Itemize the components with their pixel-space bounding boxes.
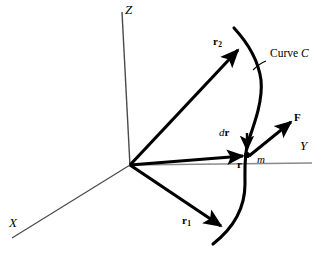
vector-label-f: F [294,112,301,123]
vector-label-r-symbol: r [237,158,242,170]
axis-label-x: X [9,216,17,229]
curve-label-text: Curve [270,47,298,59]
vector-r2-arrow [130,50,238,165]
axis-label-y: Y [300,139,307,152]
figure-canvas [0,0,334,257]
curve-label-c: CurveC [270,48,309,60]
axes-group [12,12,312,238]
vector-label-f-symbol: F [294,111,301,123]
point-label-m: m [257,154,265,165]
curve-label-name: C [301,47,309,59]
vector-label-r: r [237,159,242,170]
vector-label-r2-subscript: 2 [218,40,222,49]
point-m-marker [244,152,250,158]
vector-label-r1-subscript: 1 [187,219,191,228]
vector-f-arrow [249,122,291,156]
vector-calculus-figure: Z Y X r2 r1 r dr F m CurveC [0,0,334,257]
axis-label-z: Z [125,3,132,16]
vector-label-dr-r: r [225,126,230,138]
axis-x-line [12,165,130,238]
vectors-group [130,50,291,226]
vector-label-dr: dr [219,127,229,138]
vector-label-r1: r1 [182,215,191,228]
axis-z-line [122,12,130,166]
vector-r1-arrow [130,165,221,226]
vector-label-r2: r2 [213,36,222,49]
